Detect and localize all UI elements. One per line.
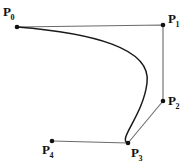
point-label-p2-subscript: 2 (175, 102, 179, 111)
control-point-p3 (126, 141, 131, 146)
point-label-p1: P1 (168, 12, 179, 29)
point-label-p4-subscript: 4 (49, 151, 53, 160)
point-label-p4: P4 (42, 143, 53, 160)
bezier-figure: P0 P1 P2 P3 P4 (0, 0, 187, 167)
point-label-p1-subscript: 1 (175, 20, 179, 29)
control-point-p2 (161, 99, 166, 104)
point-label-p0-subscript: 0 (10, 13, 14, 22)
point-label-p3-subscript: 3 (138, 154, 142, 163)
figure-canvas (0, 0, 187, 167)
bezier-curve (17, 27, 147, 143)
control-point-p0 (15, 25, 20, 30)
control-point-p1 (161, 23, 166, 28)
point-label-p0: P0 (3, 5, 14, 22)
control-polygon (17, 25, 163, 143)
point-label-p2: P2 (168, 94, 179, 111)
point-label-p3: P3 (131, 146, 142, 163)
